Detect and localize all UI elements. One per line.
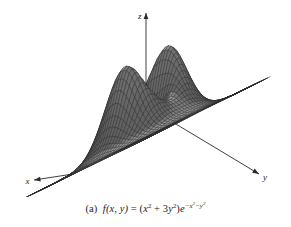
x-axis-label: x <box>25 176 30 186</box>
caption-function-args: (x, y) <box>106 203 128 214</box>
z-axis-label: z <box>137 11 142 21</box>
caption-x-exp: 2 <box>148 202 151 209</box>
x-axis: x <box>25 174 74 186</box>
caption-exponent: −x2−y2 <box>185 202 206 209</box>
figure-caption: (a) f(x, y) = (x2 + 3y2)e−x2−y2 <box>0 203 291 214</box>
surface-figure: z x y <box>0 0 291 197</box>
figure-page: z x y (a) f(x, y) = (x2 <box>0 0 291 227</box>
surface-plot-svg: z x y <box>0 0 291 197</box>
caption-exp-y-pow: 2 <box>203 200 206 205</box>
y-axis-label: y <box>262 172 267 182</box>
plot-root: z x y <box>22 11 271 198</box>
y-axis: y <box>176 124 267 182</box>
caption-part-label: (a) <box>85 203 97 214</box>
caption-y-exp: 2 <box>173 202 176 209</box>
caption-equals: = <box>131 203 137 214</box>
caption-expression: (x2 + 3y2)e−x2−y2 <box>140 203 206 214</box>
